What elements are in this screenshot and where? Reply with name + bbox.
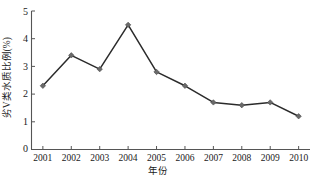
x-tick-label: 2001	[33, 154, 52, 164]
x-axis-tick-labels: 2001200220032004200520062007200820092010	[0, 0, 315, 185]
x-tick-label: 2005	[147, 154, 166, 164]
x-tick-label: 2004	[119, 154, 138, 164]
x-tick-label: 2009	[261, 154, 280, 164]
x-tick-label: 2003	[90, 154, 109, 164]
x-tick-label: 2007	[204, 154, 223, 164]
x-axis-title: 年份	[0, 167, 315, 177]
x-tick-label: 2006	[175, 154, 194, 164]
x-tick-label: 2002	[62, 154, 81, 164]
x-tick-label: 2010	[289, 154, 308, 164]
x-tick-label: 2008	[232, 154, 251, 164]
line-chart: 劣V类水质比例(%) 5 4 3 2 1 0 20012002200320042…	[0, 0, 315, 185]
